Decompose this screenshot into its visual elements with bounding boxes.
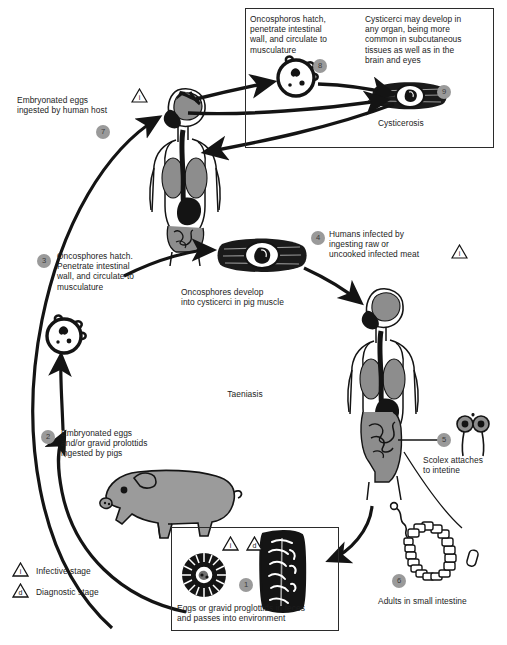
human-figure-lower [348,289,418,500]
step-badge-6: 6 [392,574,406,588]
legend-infective-icon: i [12,562,29,577]
step-5-text: Scolex attaches to intetine [423,455,507,475]
legend-diagnostic-icon: d [12,583,29,598]
legend-infective-label: Infective stage [36,566,136,576]
step-2-text: Embryonated eggs and/or gravid prolottid… [61,428,171,459]
step-badge-5: 5 [437,433,451,447]
infective-stage-icon-meat: i [451,244,468,259]
step-badge-1: 1 [239,578,253,592]
adult-tapeworm-icon [391,503,479,580]
step-badge-3: 3 [37,254,51,268]
cysticercus-in-pig-muscle-icon [218,239,307,272]
oncosphere-icon-3 [47,315,86,353]
scolex-icon [457,414,489,456]
taeniasis-label: Taeniasis [205,389,285,399]
step-3-text: Oncosphores hatch. Penetrate intestinal … [57,251,157,292]
pig-muscle-annotation: Oncosphores develop into cysticerci in p… [181,287,321,307]
step-4-text: Humans infected by ingesting raw or unco… [329,229,441,260]
step-badge-2: 2 [41,430,55,444]
human-figure-upper [150,89,220,266]
infective-stage-icon-human-host: i [131,88,148,103]
step-7-text: Embryonated eggs ingested by human host [17,95,143,115]
cysticercosis-note-8: Oncosphoros hatch, penetrate intestinal … [250,14,360,55]
step-badge-7: 7 [96,125,110,139]
diagnostic-stage-icon-eggs: d [246,536,263,551]
svg-text:d: d [253,542,257,549]
feces-box-caption: Eggs or gravid proglottids in feces and … [177,603,333,623]
life-cycle-diagram: Oncosphoros hatch, penetrate intestinal … [0,0,507,645]
cysticercosis-note-9: Cysticerci may develop in any organ, bei… [365,14,489,65]
step-badge-8: 8 [313,59,327,73]
step-6-text: Adults in small intestine [378,596,502,606]
step-badge-4: 4 [311,231,325,245]
step-badge-9: 9 [437,85,451,99]
svg-text:d: d [19,589,23,596]
legend-diagnostic-label: Diagnostic stage [36,587,146,597]
infective-stage-icon-eggs: i [222,536,239,551]
cysticercosis-label: Cysticerosis [378,118,468,128]
